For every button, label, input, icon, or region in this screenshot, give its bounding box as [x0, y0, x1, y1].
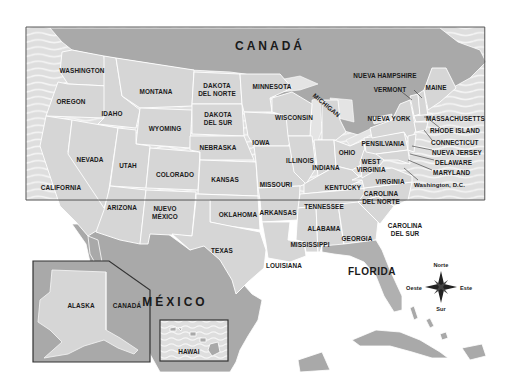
compass-north: Norte — [433, 262, 448, 268]
label-louisiana: LOUISIANA — [266, 262, 302, 269]
label-nuevo-mexico-1: NUEVO — [153, 205, 176, 212]
label-kansas: KANSAS — [211, 176, 239, 183]
label-oklahoma: OKLAHOMA — [219, 211, 258, 218]
label-missouri: MISSOURI — [260, 181, 293, 188]
label-maine: MAINE — [425, 84, 447, 91]
label-mississippi: MISSISSIPPI — [290, 241, 329, 248]
label-georgia: GEORGIA — [342, 235, 373, 242]
label-wyoming: WYOMING — [149, 125, 182, 132]
label-texas: TEXAS — [211, 247, 233, 254]
label-virginia: VIRGINIA — [375, 178, 404, 185]
state-colorado[interactable] — [146, 148, 200, 190]
label-arkansas: ARKANSAS — [259, 209, 297, 216]
label-carolina-norte-1: CAROLINA — [364, 190, 399, 197]
label-tennessee: TENNESSEE — [304, 203, 344, 210]
label-dakota-sur-2: DEL SUR — [204, 119, 233, 126]
label-washington-dc: Washington, D.C. — [414, 182, 465, 188]
compass-west: Oeste — [406, 285, 422, 291]
map-canvas: CANADÁ MÉXICO WASHINGTON OREGON CALIFORN… — [0, 0, 512, 388]
label-pensilvania: PENSILVANIA — [361, 140, 404, 147]
label-inset-canada: CANADÁ — [113, 301, 142, 309]
label-illinois: ILLINOIS — [286, 157, 314, 164]
label-west-virginia-2: VIRGINIA — [356, 166, 385, 173]
label-nuevo-mexico-2: MÉXICO — [152, 212, 178, 220]
label-utah: UTAH — [119, 162, 137, 169]
label-dakota-sur-1: DAKOTA — [204, 111, 232, 118]
label-nebraska: NEBRASKA — [199, 144, 236, 151]
label-california: CALIFORNIA — [41, 184, 82, 191]
label-kentucky: KENTUCKY — [325, 184, 362, 191]
compass-south: Sur — [436, 306, 446, 312]
label-mexico: MÉXICO — [142, 294, 207, 309]
label-wisconsin: WISCONSIN — [275, 114, 313, 121]
label-rhode-island: RHODE ISLAND — [430, 127, 480, 134]
label-delaware: DELAWARE — [435, 159, 473, 166]
label-indiana: INDIANA — [312, 164, 340, 171]
label-montana: MONTANA — [140, 88, 173, 95]
label-nueva-jersey: NUEVA JERSEY — [432, 149, 482, 156]
label-florida: FLORIDA — [348, 266, 396, 277]
label-nueva-hampshire: NUEVA HAMPSHIRE — [353, 72, 417, 79]
label-canada: CANADÁ — [235, 38, 305, 53]
label-alaska: ALASKA — [67, 302, 95, 309]
label-carolina-sur-2: DEL SUR — [391, 230, 420, 237]
label-carolina-sur-1: CAROLINA — [388, 222, 423, 229]
state-arkansas[interactable] — [258, 186, 300, 222]
compass-east: Este — [460, 285, 472, 291]
label-dakota-norte-2: DEL NORTE — [198, 90, 236, 97]
label-carolina-norte-2: DEL NORTE — [362, 198, 400, 205]
label-idaho: IDAHO — [101, 110, 122, 117]
label-minnesota: MINNESOTA — [253, 83, 292, 90]
label-dakota-norte-1: DAKOTA — [203, 82, 231, 89]
label-maryland: MARYLAND — [433, 169, 470, 176]
label-vermont: VERMONT — [374, 86, 407, 93]
label-hawaii: HAWAI — [178, 348, 200, 355]
label-colorado: COLORADO — [156, 171, 194, 178]
label-arizona: ARIZONA — [107, 204, 137, 211]
label-nueva-york: NUEVA YORK — [368, 115, 411, 122]
label-iowa: IOWA — [252, 139, 270, 146]
label-nevada: NEVADA — [76, 156, 103, 163]
label-massachusetts: MASSACHUSETTS — [426, 115, 485, 122]
label-west-virginia-1: WEST — [362, 158, 381, 165]
label-washington: WASHINGTON — [60, 67, 105, 74]
label-ohio: OHIO — [339, 149, 356, 156]
label-alabama: ALABAMA — [307, 225, 340, 232]
label-connecticut: CONNECTICUT — [431, 139, 479, 146]
label-oregon: OREGON — [56, 98, 85, 105]
